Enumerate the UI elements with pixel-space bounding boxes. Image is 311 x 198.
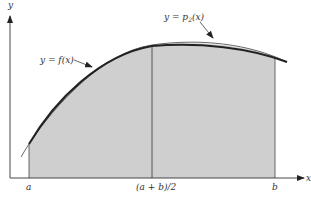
tick-label-a: a [26, 182, 31, 192]
pointer-arrow-f [74, 60, 92, 67]
y-axis-label: y [7, 0, 14, 10]
x-axis-label: x [306, 173, 311, 183]
tick-label-midpoint: (a + b)/2 [136, 182, 176, 192]
simpson-rule-diagram: y x a (a + b)/2 b y = f(x) y = p2(x) [0, 0, 311, 198]
curve-label-f-func: f(x) [57, 55, 74, 65]
curve-label-f-prefix: y = [39, 55, 58, 65]
curve-label-p2-prefix: y = [163, 12, 182, 22]
pointer-arrow-p2 [200, 22, 213, 38]
curve-label-p2: y = p2(x) [163, 12, 205, 23]
curve-label-f: y = f(x) [39, 55, 74, 65]
curve-label-p2-arg: (x) [192, 12, 205, 22]
tick-label-b: b [272, 182, 278, 192]
